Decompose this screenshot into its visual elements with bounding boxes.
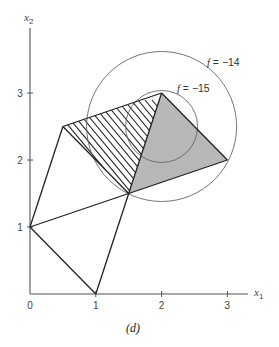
x-axis-label: x1 (253, 286, 264, 301)
y-tick-3: 3 (17, 88, 23, 99)
figure-caption: (d) (126, 321, 140, 335)
y-tick-1: 1 (17, 222, 23, 233)
y-axis-label: x2 (23, 11, 34, 26)
level-label-f-minus-14: f = −14 (207, 56, 240, 68)
x-tick-1: 1 (93, 300, 99, 311)
level-label-f-minus-15: f = −15 (177, 82, 210, 94)
y-tick-2: 2 (17, 155, 23, 166)
y-axis-ticks: 1 2 3 (17, 88, 33, 233)
feasible-region-diagram: 0 1 2 3 1 2 3 x2 x1 (0, 0, 279, 347)
x-tick-0: 0 (27, 300, 33, 311)
x-tick-3: 3 (225, 300, 231, 311)
shaded-region (129, 93, 228, 194)
x-tick-2: 2 (159, 300, 165, 311)
